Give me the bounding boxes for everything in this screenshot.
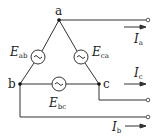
node-label-c: c [103, 77, 110, 91]
node-label-b: b [8, 77, 16, 91]
current-label-ib: Ib [111, 120, 122, 135]
current-label-ia: Ia [133, 32, 143, 47]
node-dot-b [18, 82, 22, 86]
terminal-a [146, 18, 150, 22]
wire-a-eca [59, 20, 77, 51]
terminal-c [146, 98, 150, 102]
ac-source-icon [74, 50, 88, 64]
arrowhead-icon [140, 124, 146, 128]
delta-source-diagram: a b c Eab Eca Ebc Ia Ic Ib [0, 0, 158, 140]
ac-source-icon [31, 50, 45, 64]
wire-eca-c [85, 63, 99, 84]
current-label-ic: Ic [133, 66, 143, 81]
terminal-b [146, 115, 150, 119]
arrowhead-icon [140, 82, 146, 86]
source-label-ebc: Ebc [48, 96, 66, 111]
node-label-a: a [55, 4, 62, 18]
arrowhead-icon [140, 25, 146, 29]
node-dot-c [97, 82, 101, 86]
node-dot-a [57, 18, 61, 22]
ac-source-icon [52, 77, 66, 91]
source-label-eab: Eab [9, 45, 28, 60]
wire-eab-b [20, 63, 34, 84]
wire-a-eab [42, 20, 59, 51]
source-label-eca: Eca [91, 45, 109, 60]
